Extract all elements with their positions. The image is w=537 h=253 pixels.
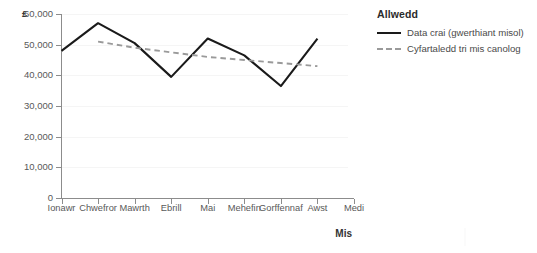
series-line	[98, 42, 317, 67]
legend-item-label: Data crai (gwerthiant misol)	[407, 27, 524, 38]
line-chart-figure: £ 010,00020,00030,00040,00050,00060,000 …	[0, 0, 537, 253]
chart-legend: Allwedd Data crai (gwerthiant misol) Cyf…	[377, 8, 533, 59]
series-line	[62, 23, 318, 86]
scroll-hint-marker	[464, 228, 466, 246]
x-axis-title: Mis	[335, 228, 352, 239]
legend-solid-line-icon	[377, 28, 401, 38]
legend-item-moving-average: Cyfartaledd tri mis canolog	[377, 43, 533, 54]
legend-item-raw-data: Data crai (gwerthiant misol)	[377, 27, 533, 38]
legend-dashed-line-icon	[377, 44, 401, 54]
legend-title: Allwedd	[377, 8, 533, 20]
legend-item-label: Cyfartaledd tri mis canolog	[407, 43, 521, 54]
